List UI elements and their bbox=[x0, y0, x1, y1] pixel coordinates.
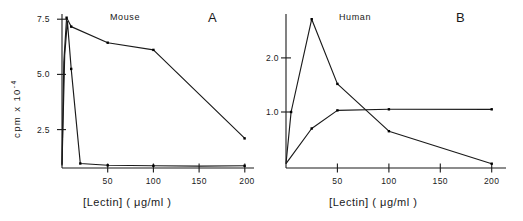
panel-a-y-axis-label-exponent: -4 bbox=[10, 79, 17, 88]
panel-b-x-label-bracket-close: ] bbox=[365, 196, 369, 208]
panel-b-series-plateau bbox=[286, 109, 492, 163]
panel-a-letter: A bbox=[208, 10, 218, 25]
panel-b-title: Human bbox=[339, 12, 371, 22]
panel-a-series-lower bbox=[62, 21, 245, 166]
panel-a-x-tick-label-0: 50 bbox=[103, 176, 113, 186]
panel-a-series-lower-markers bbox=[70, 68, 246, 167]
panel-b-x-tick-label-1: 100 bbox=[381, 176, 396, 186]
panel-a-y-tick-label-0: 7.5 bbox=[30, 14, 50, 24]
panel-a-y-axis-label: cpm x 10-4 bbox=[10, 79, 22, 138]
panel-b-series-peak bbox=[286, 19, 492, 164]
panel-a-x-tick-label-3: 200 bbox=[239, 176, 254, 186]
panel-b-x-label-name: Lectin bbox=[333, 196, 365, 208]
panel-b-series-plateau-markers bbox=[311, 108, 493, 130]
panel-a-mouse: 7.5 5.0 2.5 50 100 150 200 cpm x 10-4 [L… bbox=[0, 0, 262, 221]
panel-a-x-tick-label-1: 100 bbox=[146, 176, 161, 186]
panel-b-x-tick-label-0: 50 bbox=[332, 176, 342, 186]
panel-b-x-axis-label: [Lectin] ( μg/ml ) bbox=[329, 196, 417, 208]
panel-a-x-label-units: ( μg/ml ) bbox=[126, 196, 171, 208]
panel-b-human: 2.0 1.0 50 100 150 200 [Lectin] ( μg/ml … bbox=[261, 0, 523, 221]
panel-b-y-tick-label-1: 1.0 bbox=[259, 107, 279, 117]
panel-b-y-tick-label-0: 2.0 bbox=[259, 53, 279, 63]
panel-a-plot bbox=[0, 0, 262, 221]
panel-b-letter: B bbox=[456, 10, 466, 25]
panel-b-x-label-units: ( μg/ml ) bbox=[372, 196, 417, 208]
panel-a-x-tick-label-2: 150 bbox=[191, 176, 206, 186]
panel-b-plot bbox=[261, 0, 523, 221]
panel-b-x-tick-label-3: 200 bbox=[484, 176, 499, 186]
panel-a-series-upper bbox=[62, 18, 245, 165]
panel-a-y-tick-label-1: 5.0 bbox=[30, 69, 50, 79]
panel-a-y-tick-label-2: 2.5 bbox=[30, 125, 50, 135]
panel-a-series-upper-markers bbox=[65, 17, 245, 140]
panel-a-x-label-bracket-close: ] bbox=[119, 196, 123, 208]
panel-a-y-axis-label-main: cpm x 10 bbox=[11, 88, 22, 138]
panel-b-x-tick-label-2: 150 bbox=[433, 176, 448, 186]
panel-a-x-axis-label: [Lectin] ( μg/ml ) bbox=[83, 196, 171, 208]
figure-root: 7.5 5.0 2.5 50 100 150 200 cpm x 10-4 [L… bbox=[0, 0, 523, 221]
panel-a-title: Mouse bbox=[110, 12, 140, 22]
panel-a-x-label-name: Lectin bbox=[87, 196, 119, 208]
